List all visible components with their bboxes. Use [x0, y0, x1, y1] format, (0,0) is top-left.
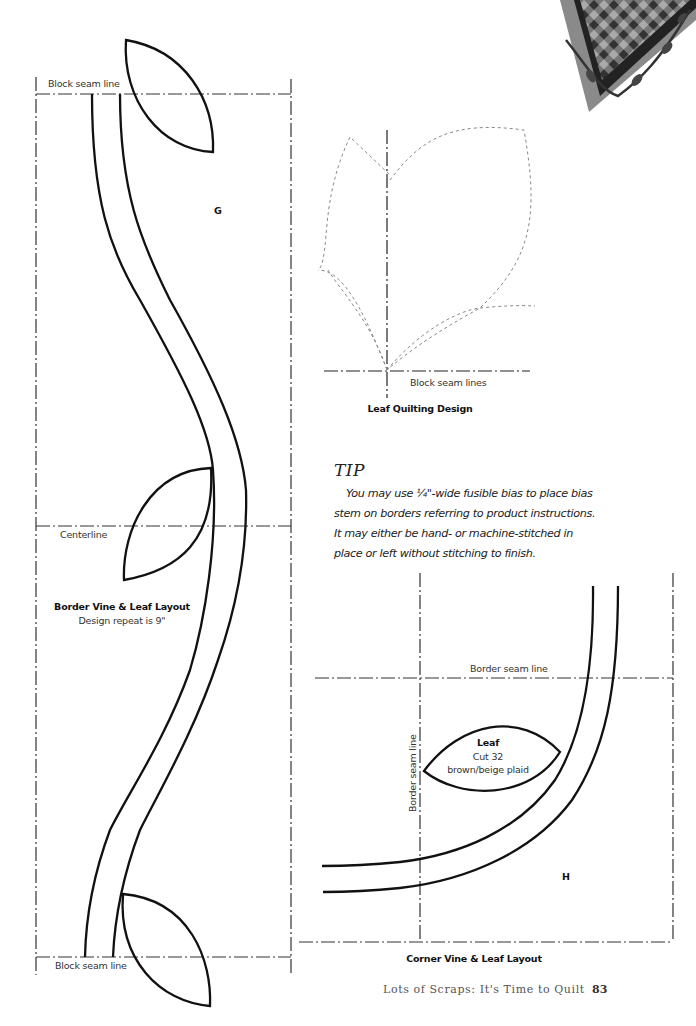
book-title-footer: Lots of Scraps: It's Time to Quilt [383, 983, 585, 996]
bottom-block-seam-label: Block seam line [55, 960, 127, 971]
corner-layout-title: Corner Vine & Leaf Layout [406, 953, 541, 964]
leaf-fabric: brown/beige plaid [447, 764, 529, 775]
border-layout-title: Border Vine & Leaf Layout [54, 601, 190, 612]
border-seam-line-horizontal-label: Border seam line [470, 663, 548, 674]
leaf-quilting-title: Leaf Quilting Design [367, 403, 472, 414]
piece-g-label: G [214, 205, 222, 216]
block-seam-lines-label: Block seam lines [410, 377, 487, 388]
tip-line-1: You may use ¼"-wide fusible bias to plac… [334, 484, 634, 504]
page-number: 83 [592, 983, 607, 996]
pattern-page: Block seam line G Centerline Border Vine… [0, 0, 696, 1026]
top-block-seam-label: Block seam line [48, 78, 120, 89]
tip-line-3: It may either be hand- or machine-stitch… [334, 524, 634, 544]
tip-line-4: place or left without stitching to finis… [334, 544, 634, 564]
piece-h-label: H [562, 871, 570, 882]
border-layout-subtitle: Design repeat is 9" [78, 615, 165, 626]
tip-line-2: stem on borders referring to product ins… [334, 504, 634, 524]
leaf-quilting-figure [318, 127, 535, 398]
border-layout-figure [36, 40, 291, 1006]
tip-body: You may use ¼"-wide fusible bias to plac… [334, 484, 634, 564]
border-seam-line-vertical-label: Border seam line [407, 734, 418, 812]
leaf-piece-title: Leaf [477, 737, 499, 748]
tip-heading: TIP [334, 460, 365, 480]
centerline-label: Centerline [60, 529, 107, 540]
leaf-cut-count: Cut 32 [473, 751, 503, 762]
